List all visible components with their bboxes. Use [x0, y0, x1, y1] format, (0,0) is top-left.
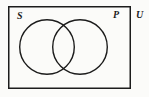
set-p-circle	[53, 20, 108, 75]
set-s-circle	[20, 20, 75, 75]
set-s-label: S	[17, 11, 23, 21]
venn-diagram-figure: S P U	[0, 0, 149, 97]
set-p-label: P	[113, 10, 119, 20]
universe-label: U	[136, 10, 143, 20]
